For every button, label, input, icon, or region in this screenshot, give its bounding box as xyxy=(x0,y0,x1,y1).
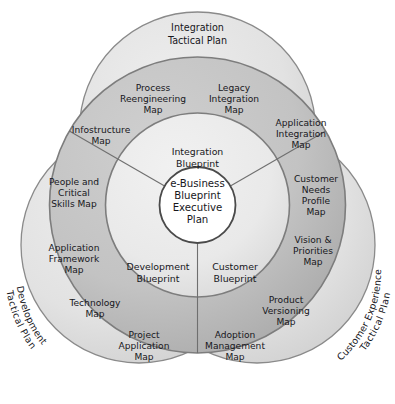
legacy-integration-map-line-3: Map xyxy=(224,105,243,115)
product-versioning-map-line-1: Product xyxy=(269,295,304,305)
development-blueprint-line-2: Blueprint xyxy=(137,273,180,284)
project-application-map-line-3: Map xyxy=(134,352,153,362)
legacy-integration-map-line-2: Integration xyxy=(209,94,259,104)
project-application-map-line-2: Application xyxy=(119,341,170,351)
center-line-1: e-Business xyxy=(170,178,225,189)
customer-needs-profile-map-line-2: Needs xyxy=(302,185,331,195)
application-integration-map-line-3: Map xyxy=(291,140,310,150)
application-framework-map-line-2: Framework xyxy=(49,254,100,264)
adoption-management-map-line-1: Adoption xyxy=(215,330,256,340)
integration-tactical-plan-line-1: Integration xyxy=(171,22,224,33)
technology-map-line-2: Map xyxy=(85,309,104,319)
adoption-management-map-line-2: Management xyxy=(205,341,265,351)
project-application-map-line-1: Project xyxy=(128,330,160,340)
ebusiness-blueprint-diagram: e-Business Blueprint Executive Plan Inte… xyxy=(0,0,395,404)
center-line-2: Blueprint xyxy=(174,190,220,201)
legacy-integration-map-line-1: Legacy xyxy=(218,83,251,93)
customer-needs-profile-map-line-3: Profile xyxy=(302,196,331,206)
application-framework-map-line-3: Map xyxy=(64,265,83,275)
vision-and-priorities-map-line-2: Priorities xyxy=(293,246,333,256)
customer-blueprint-line-1: Customer xyxy=(212,261,258,272)
process-reengineering-map-line-2: Reengineering xyxy=(120,94,186,104)
center-line-4: Plan xyxy=(187,214,209,225)
infostructure-map-line-1: Infostructure xyxy=(72,125,131,135)
product-versioning-map-line-2: Versioning xyxy=(262,306,310,316)
customer-blueprint-line-2: Blueprint xyxy=(214,273,257,284)
application-integration-map-line-2: Integration xyxy=(276,129,326,139)
technology-map-line-1: Technology xyxy=(69,298,122,308)
label-customer-blueprint: Customer Blueprint xyxy=(212,261,258,284)
label-integration-blueprint: Integration Blueprint xyxy=(172,146,224,169)
vision-and-priorities-map-line-3: Map xyxy=(303,257,322,267)
integration-blueprint-line-1: Integration xyxy=(172,146,224,157)
center-line-3: Executive xyxy=(173,202,223,213)
application-integration-map-line-1: Application xyxy=(276,118,327,128)
diagram-canvas: e-Business Blueprint Executive Plan Inte… xyxy=(0,0,395,404)
development-blueprint-line-1: Development xyxy=(126,261,189,272)
process-reengineering-map-line-1: Process xyxy=(136,83,171,93)
customer-needs-profile-map-line-1: Customer xyxy=(294,174,338,184)
product-versioning-map-line-3: Map xyxy=(276,317,295,327)
integration-blueprint-line-2: Blueprint xyxy=(176,158,219,169)
application-framework-map-line-1: Application xyxy=(49,243,100,253)
adoption-management-map-line-3: Map xyxy=(225,352,244,362)
process-reengineering-map-line-3: Map xyxy=(143,105,162,115)
infostructure-map-line-2: Map xyxy=(91,136,110,146)
people-critical-skills-map-line-3: Skills Map xyxy=(51,199,97,209)
integration-tactical-plan-line-2: Tactical Plan xyxy=(167,35,227,46)
people-critical-skills-map-line-1: People and xyxy=(49,177,99,187)
vision-and-priorities-map-line-1: Vision & xyxy=(294,235,331,245)
people-critical-skills-map-line-2: Critical xyxy=(58,188,90,198)
customer-needs-profile-map-line-4: Map xyxy=(306,207,325,217)
